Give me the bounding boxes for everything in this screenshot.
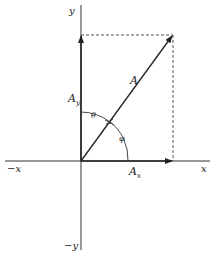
y-axis-label: y [68, 5, 75, 16]
x-axis-label: x [201, 163, 207, 174]
neg-x-axis-label: −x [7, 163, 21, 174]
theta-label: θ [91, 111, 96, 120]
ax-label: Ax [128, 165, 141, 180]
neg-y-axis-label: −y [64, 240, 78, 251]
phi-label: φ [119, 134, 125, 143]
vector-a-label: A [129, 74, 138, 87]
ay-label: Ay [67, 92, 81, 107]
phi-arc-arrowhead [109, 119, 114, 125]
vector-a-arrow [81, 36, 172, 161]
vector-diagram: y −y x −x A Ay Ax θ φ [0, 0, 217, 258]
